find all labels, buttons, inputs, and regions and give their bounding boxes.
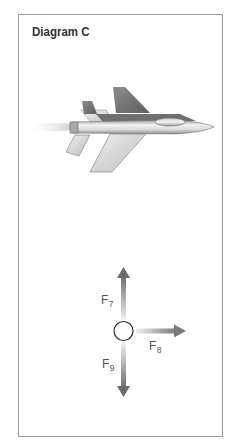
force-arrow-down <box>117 342 130 397</box>
force-label-f9: F9 <box>102 357 115 373</box>
force-label-f7: F7 <box>101 293 114 309</box>
force-arrow-up <box>117 267 130 320</box>
diagram-artwork <box>0 0 233 448</box>
tail-fin <box>82 101 97 114</box>
jet-airplane-illustration <box>24 87 214 172</box>
engine-nozzle <box>70 122 78 133</box>
horizontal-stabilizer-lower <box>66 135 90 156</box>
exhaust-plume <box>24 123 74 131</box>
lower-wing <box>90 134 146 172</box>
object-circle <box>114 322 133 341</box>
force-label-f8: F8 <box>149 339 162 355</box>
force-diagram <box>114 267 186 397</box>
force-arrow-right <box>136 325 186 338</box>
canopy <box>155 118 185 126</box>
upper-wing <box>113 87 150 113</box>
fuselage <box>72 120 214 134</box>
